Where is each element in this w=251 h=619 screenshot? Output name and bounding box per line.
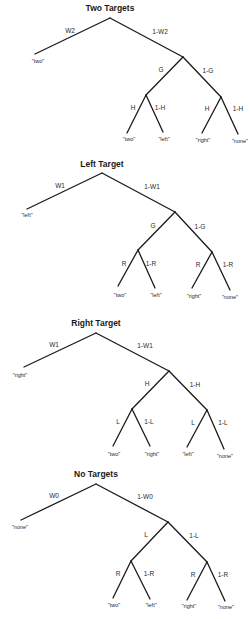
edge-label: 1-G bbox=[203, 67, 214, 74]
edge-leaf bbox=[118, 250, 138, 286]
edge-root-left bbox=[35, 18, 110, 54]
leaf-outcome-label: "two" bbox=[108, 602, 121, 608]
leaf-outcome-label: "right" bbox=[182, 603, 197, 609]
edge-label: W2 bbox=[65, 27, 75, 34]
edge-label: L bbox=[144, 531, 148, 538]
edge-label: 1-R bbox=[223, 261, 234, 268]
edge-mid-left bbox=[132, 371, 169, 409]
leaf-outcome-label: "right" bbox=[145, 451, 160, 457]
leaf-outcome-label: "none" bbox=[222, 294, 238, 300]
tree-title: Right Target bbox=[71, 318, 121, 328]
edge-label: L bbox=[116, 418, 120, 425]
edge-leaf bbox=[202, 97, 221, 133]
edge-leaf bbox=[113, 561, 131, 598]
edge-label: L bbox=[191, 419, 195, 426]
edge-label: R bbox=[116, 570, 121, 577]
edge-leaf bbox=[221, 97, 238, 134]
edge-root-left bbox=[27, 173, 102, 209]
edge-root-left bbox=[21, 484, 96, 520]
edge-label: 1-W0 bbox=[137, 493, 153, 500]
leaf-outcome-label: "none" bbox=[12, 524, 28, 530]
edge-label: 1-G bbox=[195, 223, 206, 230]
edge-label: G bbox=[158, 66, 163, 73]
edge-label: 1-H bbox=[155, 104, 166, 111]
tree-title: Two Targets bbox=[86, 3, 135, 13]
edge-leaf bbox=[187, 410, 207, 447]
leaf-outcome-label: "two" bbox=[123, 136, 136, 142]
edge-leaf bbox=[146, 95, 163, 132]
edge-label: H bbox=[131, 104, 136, 111]
edge-mid-right bbox=[183, 57, 221, 97]
leaf-outcome-label: "two" bbox=[108, 451, 121, 457]
edge-mid-right bbox=[168, 522, 207, 562]
leaf-outcome-label: "left" bbox=[145, 602, 156, 608]
edge-label: R bbox=[122, 260, 127, 267]
edge-label: 1-H bbox=[190, 381, 201, 388]
edge-root-right bbox=[96, 484, 168, 522]
leaf-outcome-label: "left" bbox=[21, 212, 32, 218]
tree-title: No Targets bbox=[74, 469, 118, 479]
leaf-outcome-label: "none" bbox=[218, 604, 234, 610]
edge-label: 1-W2 bbox=[152, 28, 168, 35]
edge-leaf bbox=[132, 409, 150, 446]
edge-root-left bbox=[24, 333, 96, 367]
edge-leaf bbox=[207, 562, 225, 601]
edge-label: 1-L bbox=[189, 532, 199, 539]
edge-label: G bbox=[150, 222, 155, 229]
leaf-outcome-label: "right" bbox=[196, 137, 211, 143]
edge-mid-left bbox=[138, 212, 175, 250]
leaf-outcome-label: "right" bbox=[187, 293, 202, 299]
leaf-outcome-label: "none" bbox=[217, 453, 233, 459]
edge-label: W0 bbox=[49, 492, 59, 499]
leaf-outcome-label: "none" bbox=[232, 138, 248, 144]
edge-leaf bbox=[187, 562, 207, 600]
edge-leaf bbox=[131, 561, 150, 599]
edge-leaf bbox=[192, 252, 212, 288]
edge-root-right bbox=[102, 173, 175, 212]
edge-label: 1-R bbox=[144, 570, 155, 577]
edge-label: H bbox=[205, 105, 210, 112]
probability-tree-diagram: Two TargetsW21-W2"two"G1-GH"two"1-H"left… bbox=[0, 0, 251, 619]
edge-label: 1-H bbox=[233, 105, 244, 112]
leaf-outcome-label: "two" bbox=[32, 58, 45, 64]
leaf-outcome-label: "left" bbox=[182, 451, 193, 457]
edge-leaf bbox=[113, 409, 132, 446]
leaf-outcome-label: "right" bbox=[13, 372, 28, 378]
edge-label: W1 bbox=[49, 341, 59, 348]
edge-leaf bbox=[127, 95, 146, 133]
edge-label: R bbox=[196, 261, 201, 268]
edge-leaf bbox=[138, 250, 155, 288]
edge-label: 1-W1 bbox=[144, 183, 160, 190]
leaf-outcome-label: "two" bbox=[114, 292, 127, 298]
edge-label: 1-L bbox=[218, 419, 228, 426]
edge-label: 1-R bbox=[218, 571, 229, 578]
edge-mid-right bbox=[175, 212, 212, 252]
edge-label: 1-L bbox=[144, 418, 154, 425]
edge-leaf bbox=[212, 252, 230, 290]
tree-title: Left Target bbox=[80, 159, 123, 169]
edge-root-right bbox=[110, 18, 183, 57]
edge-root-right bbox=[96, 333, 169, 371]
edge-label: 1-W1 bbox=[137, 342, 153, 349]
edge-mid-right bbox=[169, 371, 207, 410]
edge-label: H bbox=[145, 380, 150, 387]
edge-label: W1 bbox=[55, 182, 65, 189]
leaf-outcome-label: "left" bbox=[158, 136, 169, 142]
edge-mid-left bbox=[131, 522, 168, 561]
edge-mid-left bbox=[146, 57, 183, 95]
edge-label: R bbox=[191, 571, 196, 578]
edge-leaf bbox=[207, 410, 224, 449]
edge-label: 1-R bbox=[146, 260, 157, 267]
leaf-outcome-label: "left" bbox=[150, 292, 161, 298]
